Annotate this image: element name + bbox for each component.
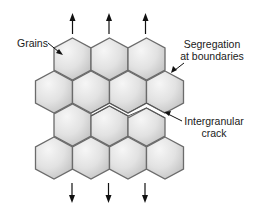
tension-arrows-bottom [69, 183, 148, 203]
crack-label-line1: Intergranular [184, 115, 244, 127]
arrow-down-icon [106, 183, 112, 203]
grain-array [36, 38, 184, 179]
segregation-callout: Segregation at boundaries [171, 38, 244, 73]
segregation-label-line1: Segregation [184, 38, 241, 50]
arrow-down-icon [142, 183, 148, 203]
arrow-up-icon [70, 13, 76, 34]
arrow-up-icon [106, 13, 112, 34]
grain [147, 137, 184, 179]
arrow-up-icon [143, 13, 149, 34]
grain [110, 71, 147, 113]
grain [73, 137, 110, 179]
grains-label: Grains [17, 37, 48, 49]
arrow-down-icon [69, 183, 75, 203]
grain [36, 137, 73, 179]
grain [110, 137, 147, 179]
pointer-arrow-icon [171, 66, 177, 73]
crack-callout: Intergranular crack [164, 111, 244, 139]
segregation-label-line2: at boundaries [180, 50, 244, 62]
crack-label-line2: crack [201, 127, 227, 139]
grain [147, 71, 184, 113]
tension-arrows-top [70, 13, 149, 34]
intergranular-crack-diagram: Grains Segregation at boundaries Intergr… [0, 0, 254, 213]
